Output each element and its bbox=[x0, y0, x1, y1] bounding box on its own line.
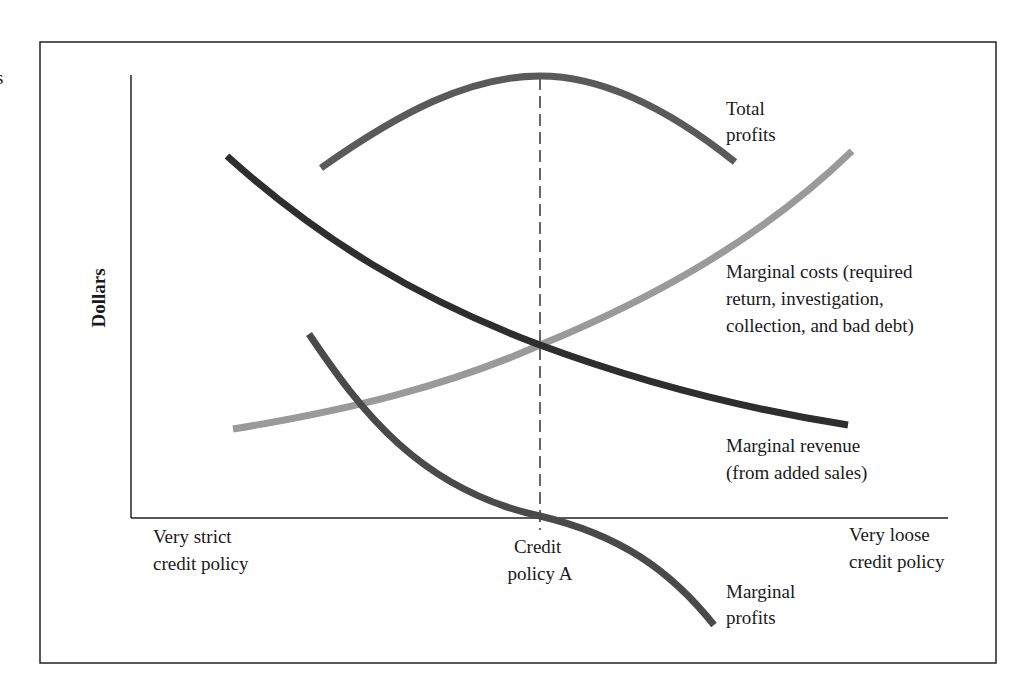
x-label-very-loose: Very loose credit policy bbox=[849, 524, 945, 572]
y-axis-label: Dollars bbox=[88, 268, 109, 327]
label-marginal-profits: Marginal profits bbox=[726, 581, 800, 628]
label-marginal-revenue: Marginal revenue (from added sales) bbox=[726, 435, 867, 484]
x-label-very-strict: Very strict credit policy bbox=[153, 526, 249, 574]
edge-glyph: s bbox=[0, 67, 3, 88]
chart-figure: s Dollars Very strict credit policy Cred… bbox=[0, 0, 1034, 697]
label-total-profits: Total profits bbox=[726, 98, 776, 145]
x-label-credit-policy-a: Credit policy A bbox=[508, 536, 573, 584]
label-marginal-costs: Marginal costs (required return, investi… bbox=[726, 261, 917, 337]
total-profits-curve bbox=[321, 76, 735, 168]
